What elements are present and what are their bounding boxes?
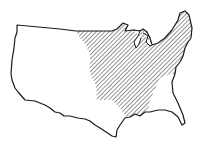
us-map-svg [0,0,201,153]
us-map [0,0,201,153]
hatched-region [76,11,192,117]
